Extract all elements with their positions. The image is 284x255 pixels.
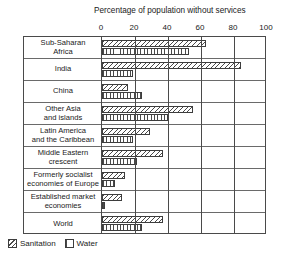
bar-group [102,213,265,235]
chart-legend: SanitationWater [8,239,98,248]
x-tick-label-60: 60 [196,22,205,33]
bar-water [102,180,115,187]
category-label: Established marketeconomies [24,191,102,213]
category-label: Formerly socialisteconomies of Europe [24,169,102,191]
category-label-text: China [51,87,75,96]
category-label: China [24,81,102,103]
category-label: World [24,213,102,235]
category-label-line: India [54,65,72,74]
category-label-text: Sub-SaharanAfrica [39,39,88,56]
category-label: Other Asiaand islands [24,103,102,125]
bar-sanitation [102,106,193,113]
bar-water [102,158,137,165]
bar-sanitation [102,40,206,47]
bar-sanitation [102,84,128,91]
bar-water [102,136,133,143]
legend-label: Water [77,239,98,248]
plot-area [101,36,266,234]
category-label-line: economies [30,202,97,211]
bar-group [102,59,265,81]
bar-sanitation [102,62,241,69]
bar-water [102,70,133,77]
bar-group [102,147,265,169]
category-label: Sub-SaharanAfrica [24,37,102,59]
x-tick-label-40: 40 [163,22,172,33]
legend-swatch-icon [8,239,17,248]
category-label-line: Africa [40,48,87,57]
bar-water [102,202,105,209]
category-label-text: Established marketeconomies [29,193,98,210]
bar-group [102,81,265,103]
category-label-text: India [53,65,73,74]
x-tick-label-80: 80 [229,22,238,33]
legend-entry-water: Water [65,239,98,248]
bar-group [102,103,265,125]
category-label: India [24,59,102,81]
category-label: Middle Easterncrescent [24,147,102,169]
category-label-text: Formerly socialisteconomies of Europe [25,171,101,188]
category-label: Latin Americaand the Caribbean [24,125,102,147]
bar-sanitation [102,216,163,223]
category-label-column: Sub-SaharanAfricaIndiaChinaOther Asiaand… [23,36,101,234]
category-label-line: economies of Europe [26,180,100,189]
chart-title: Percentage of population without service… [94,6,282,16]
bar-sanitation [102,150,163,157]
category-label-line: China [52,87,74,96]
bar-water [102,92,142,99]
x-tick-label-100: 100 [259,22,272,33]
bar-water [102,114,168,121]
category-label-line: crescent [37,158,90,167]
bar-group [102,125,265,147]
legend-swatch-icon [65,239,74,248]
category-label-text: World [51,220,75,229]
category-label-line: and islands [43,114,83,123]
category-label-text: Other Asiaand islands [42,105,84,122]
legend-entry-sanitation: Sanitation [8,239,56,248]
bar-group [102,191,265,213]
category-label-text: Middle Easterncrescent [36,149,91,166]
bar-sanitation [102,128,150,135]
bar-sanitation [102,194,122,201]
bar-sanitation [102,172,125,179]
category-label-line: World [52,220,74,229]
category-label-line: and the Caribbean [31,136,96,145]
x-tick-label-20: 20 [130,22,139,33]
bar-group [102,169,265,191]
category-label-text: Latin Americaand the Caribbean [30,127,97,144]
x-tick-label-0: 0 [99,22,103,33]
x-axis-tick-labels: 020406080100 [0,22,284,34]
bar-water [102,224,142,231]
bar-water [102,48,189,55]
bar-group [102,37,265,59]
legend-label: Sanitation [20,239,56,248]
chart-figure: Percentage of population without service… [0,0,284,255]
